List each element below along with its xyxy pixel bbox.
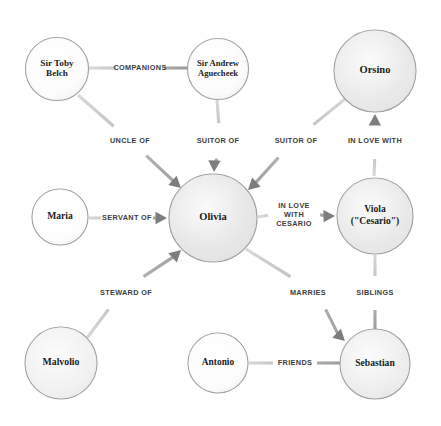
- node-maria[interactable]: Maria: [32, 189, 88, 245]
- arrowhead-maria-olivia: [156, 212, 168, 224]
- node-orsino[interactable]: Orsino: [334, 30, 416, 112]
- node-label-sebastian: Sebastian: [355, 357, 395, 368]
- edge-label-olivia-viola: IN LOVEWITHCESARIO: [276, 201, 312, 228]
- node-toby[interactable]: Sir TobyBelch: [26, 38, 89, 101]
- edge-label-maria-olivia: SERVANT OF: [102, 213, 152, 222]
- edge-label-toby-olivia: UNCLE OF: [110, 136, 150, 145]
- node-viola[interactable]: Viola("Cesario"): [337, 178, 413, 254]
- arrowhead-andrew-olivia: [208, 160, 220, 172]
- node-label-orsino: Orsino: [360, 64, 391, 75]
- graph-canvas: Sir TobyBelchSir AndrewAguecheekOrsinoMa…: [0, 0, 441, 426]
- edge-label-malvolio-olivia: STEWARD OF: [100, 288, 152, 297]
- edge-label-andrew-olivia: SUITOR OF: [197, 136, 240, 145]
- arrowhead-olivia-viola: [323, 210, 335, 222]
- edge-label-viola-sebastian: SIBLINGS: [356, 288, 393, 297]
- node-label-malvolio: Malvolio: [42, 356, 79, 367]
- arrowhead-viola-orsino: [369, 114, 381, 126]
- node-antonio[interactable]: Antonio: [188, 333, 248, 393]
- edge-label-viola-orsino: IN LOVE WITH: [348, 136, 402, 145]
- edge-label-antonio-sebastian: FRIENDS: [278, 358, 312, 367]
- node-label-maria: Maria: [47, 210, 73, 221]
- edge-label-orsino-olivia: SUITOR OF: [275, 136, 318, 145]
- node-olivia[interactable]: Olivia: [169, 174, 257, 262]
- node-andrew[interactable]: Sir AndrewAguecheek: [188, 39, 249, 100]
- edge-viola-orsino: [369, 114, 381, 176]
- node-label-antonio: Antonio: [202, 357, 235, 367]
- node-label-olivia: Olivia: [199, 211, 227, 222]
- edge-label-olivia-sebastian: MARRIES: [290, 288, 326, 297]
- character-relationship-diagram: Sir TobyBelchSir AndrewAguecheekOrsinoMa…: [0, 0, 441, 426]
- nodes-layer: Sir TobyBelchSir AndrewAguecheekOrsinoMa…: [25, 30, 416, 399]
- node-sebastian[interactable]: Sebastian: [340, 329, 410, 399]
- node-label-andrew: Sir AndrewAguecheek: [197, 58, 240, 78]
- node-malvolio[interactable]: Malvolio: [25, 327, 97, 399]
- arrowhead-olivia-sebastian: [332, 329, 345, 341]
- edge-label-toby-andrew: COMPANIONS: [113, 63, 166, 72]
